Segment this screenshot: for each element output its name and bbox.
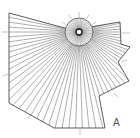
central-circle <box>59 12 99 52</box>
figure-label: A <box>113 117 120 128</box>
